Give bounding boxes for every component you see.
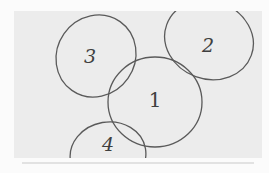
circle-4: 4: [65, 116, 151, 158]
circle-1-label: 1: [149, 88, 162, 112]
page-edge-line: [22, 162, 254, 164]
circle-1: 1: [108, 57, 202, 147]
circle-2-label: 2: [201, 34, 214, 56]
circle-2: 2: [153, 11, 262, 92]
paper-sheet: 3 2 4 1: [14, 11, 262, 158]
circle-4-label: 4: [101, 133, 114, 155]
circle-3: 3: [40, 11, 152, 113]
circle-3-label: 3: [84, 45, 96, 67]
circle-diagram: 3 2 4 1: [14, 11, 262, 158]
sketch-photo: 3 2 4 1: [0, 0, 269, 173]
